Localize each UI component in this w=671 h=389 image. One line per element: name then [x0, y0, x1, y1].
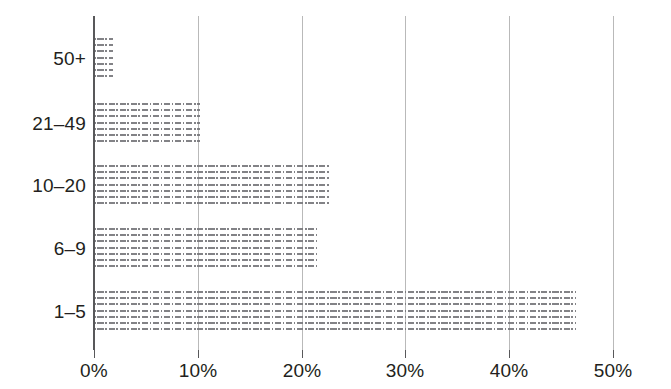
x-axis-label-0: 0%	[54, 360, 134, 382]
x-axis-tick-40	[509, 350, 510, 358]
gridline-50	[613, 16, 614, 350]
x-axis-tick-0	[94, 350, 95, 358]
bar-6-9	[94, 228, 317, 268]
bar-21-49	[94, 103, 200, 143]
x-axis-label-10: 10%	[158, 360, 238, 382]
y-axis-label-10-20: 10–20	[0, 175, 86, 197]
x-axis-label-50: 50%	[573, 360, 653, 382]
y-axis-label-21-49: 21–49	[0, 113, 86, 135]
bar-10-20	[94, 165, 330, 205]
y-axis-labels: 50+ 21–49 10–20 6–9 1–5	[0, 0, 86, 389]
x-axis-label-30: 30%	[365, 360, 445, 382]
y-axis-label-6-9: 6–9	[0, 238, 86, 260]
x-axis-tick-10	[198, 350, 199, 358]
y-axis-label-50-plus: 50+	[0, 48, 86, 70]
x-axis-tick-20	[302, 350, 303, 358]
x-axis-label-40: 40%	[469, 360, 549, 382]
bar-50-plus	[94, 38, 113, 78]
y-axis-label-1-5: 1–5	[0, 301, 86, 323]
bar-chart: 50+ 21–49 10–20 6–9 1–5 0% 10% 20% 30% 4…	[0, 0, 671, 389]
y-axis-line	[93, 16, 95, 350]
plot-area	[94, 16, 613, 350]
x-axis-label-20: 20%	[262, 360, 342, 382]
x-axis-tick-30	[405, 350, 406, 358]
bar-1-5	[94, 291, 576, 331]
x-axis-tick-50	[613, 350, 614, 358]
